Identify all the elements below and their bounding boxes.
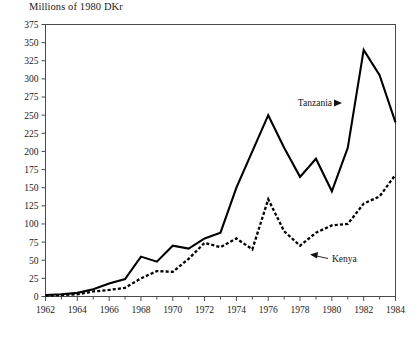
y-tick-label: 250	[24, 111, 39, 121]
x-tick-label: 1966	[100, 305, 119, 315]
x-tick-label: 1980	[322, 305, 341, 315]
x-tick-label: 1978	[291, 305, 310, 315]
x-axis-ticks: 1962196419661968197019721974197619781980…	[36, 297, 405, 315]
y-tick-label: 100	[24, 219, 39, 229]
y-tick-label: 25	[29, 274, 39, 284]
x-tick-label: 1972	[195, 305, 214, 315]
tanzania-arrow-icon	[334, 100, 342, 107]
y-tick-label: 375	[24, 20, 39, 30]
y-tick-label: 350	[24, 38, 39, 48]
y-tick-label: 150	[24, 183, 39, 193]
y-tick-label: 200	[24, 147, 39, 157]
y-tick-label: 50	[29, 256, 39, 266]
x-tick-label: 1968	[131, 305, 150, 315]
x-tick-label: 1970	[163, 305, 182, 315]
y-tick-label: 275	[24, 92, 39, 102]
y-tick-label: 300	[24, 74, 39, 84]
series-line-kenya	[46, 175, 396, 296]
x-tick-label: 1964	[68, 305, 87, 315]
y-tick-label: 325	[24, 56, 39, 66]
x-tick-label: 1982	[354, 305, 373, 315]
series-label-kenya: Kenya	[332, 254, 358, 264]
kenya-arrow-icon	[310, 252, 318, 259]
chart-figure: Millions of 1980 DKr 0255075100125150175…	[0, 0, 416, 338]
y-axis-ticks: 0255075100125150175200225250275300325350…	[24, 20, 45, 302]
y-tick-label: 0	[34, 292, 39, 302]
y-tick-label: 225	[24, 129, 39, 139]
line-chart-plot: 0255075100125150175200225250275300325350…	[0, 0, 416, 338]
x-tick-label: 1984	[386, 305, 405, 315]
x-tick-label: 1976	[259, 305, 278, 315]
series-label-tanzania: Tanzania	[298, 98, 333, 108]
x-tick-label: 1974	[227, 305, 246, 315]
x-tick-label: 1962	[36, 305, 55, 315]
y-tick-label: 75	[29, 238, 39, 248]
y-tick-label: 125	[24, 201, 39, 211]
y-tick-label: 175	[24, 165, 39, 175]
